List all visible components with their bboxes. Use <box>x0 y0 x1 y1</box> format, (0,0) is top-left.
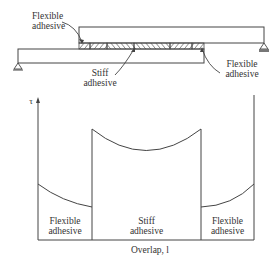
stress-curve-flexible-left <box>38 184 92 207</box>
label-line: Flexible <box>38 216 92 226</box>
label-line: Flexible <box>201 216 254 226</box>
right-support-icon <box>259 43 269 52</box>
stress-curve-stiff <box>92 129 201 151</box>
label-line: adhesive <box>38 226 92 236</box>
leader-flexible-right <box>202 49 220 73</box>
y-axis-arrow-icon <box>36 97 40 103</box>
stress-curve-flexible-right <box>201 184 254 207</box>
label-stiff-adhesive: Stiff adhesive <box>80 68 120 88</box>
region-label-flexible-left: Flexible adhesive <box>38 216 92 236</box>
label-line: adhesive <box>220 69 264 79</box>
label-line: adhesive <box>92 226 201 236</box>
y-axis-label: τ <box>26 96 36 106</box>
bottom-adherend <box>18 49 204 63</box>
x-axis-label: Overlap, l <box>100 245 200 255</box>
region-label-stiff: Stiff adhesive <box>92 216 201 236</box>
label-flexible-adhesive-right: Flexible adhesive <box>220 59 264 79</box>
label-line: Flexible <box>32 11 65 21</box>
label-line: Flexible <box>220 59 264 69</box>
top-adherend <box>79 27 264 43</box>
label-line: adhesive <box>201 226 254 236</box>
region-label-flexible-right: Flexible adhesive <box>201 216 254 236</box>
label-flexible-adhesive-top: Flexible adhesive <box>32 11 65 31</box>
label-line: adhesive <box>32 21 65 31</box>
label-line: Stiff <box>92 216 201 226</box>
left-support-icon <box>13 63 23 70</box>
label-line: adhesive <box>80 78 120 88</box>
adhesive-layer <box>79 43 204 49</box>
label-line: Stiff <box>80 68 120 78</box>
